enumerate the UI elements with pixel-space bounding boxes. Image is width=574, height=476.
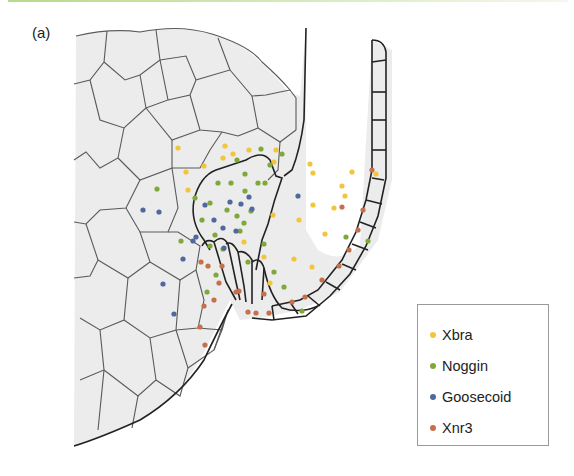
- xbra-dot: [349, 169, 354, 174]
- noggin-dot: [242, 188, 247, 193]
- noggin-dot: [215, 180, 220, 185]
- noggin-dot: [271, 269, 276, 274]
- goosecoid-dot-icon: [430, 394, 436, 400]
- xbra-dot: [222, 143, 227, 148]
- xnr3-dot: [253, 310, 258, 315]
- xnr3-dot: [197, 324, 202, 329]
- legend-label: Goosecoid: [442, 389, 511, 405]
- goosecoid-dot: [233, 228, 238, 233]
- xnr3-dot: [360, 207, 365, 212]
- xbra-dot: [273, 147, 278, 152]
- xnr3-dot: [245, 309, 250, 314]
- noggin-dot: [255, 180, 260, 185]
- xbra-dot: [339, 183, 344, 188]
- goosecoid-dot: [295, 193, 300, 198]
- noggin-dot: [204, 289, 209, 294]
- noggin-dot: [245, 259, 250, 264]
- legend: Xbra Noggin Goosecoid Xnr3: [417, 304, 549, 446]
- noggin-dot: [178, 238, 183, 243]
- xbra-dot: [220, 155, 225, 160]
- xnr3-dot: [198, 259, 203, 264]
- xbra-dot: [296, 217, 301, 222]
- xbra-dot: [261, 254, 266, 259]
- xnr3-dot: [339, 204, 344, 209]
- xbra-dot: [175, 145, 180, 150]
- xnr3-dot: [233, 289, 238, 294]
- xbra-dot: [310, 170, 315, 175]
- noggin-dot: [234, 213, 239, 218]
- xbra-dot: [241, 239, 246, 244]
- xbra-dot: [331, 205, 336, 210]
- xbra-dot: [342, 193, 347, 198]
- noggin-dot: [228, 180, 233, 185]
- xnr3-dot: [216, 280, 221, 285]
- xnr3-dot: [261, 291, 266, 296]
- goosecoid-dot: [190, 238, 195, 243]
- noggin-dot-icon: [430, 363, 436, 369]
- legend-item-goosecoid: Goosecoid: [418, 381, 548, 412]
- goosecoid-dot: [140, 207, 145, 212]
- xbra-dot: [270, 212, 275, 217]
- noggin-dot: [242, 171, 247, 176]
- noggin-dot: [262, 180, 267, 185]
- goosecoid-dot: [211, 217, 216, 222]
- xnr3-dot: [319, 277, 324, 282]
- noggin-dot: [154, 186, 159, 191]
- legend-item-xnr3: Xnr3: [418, 412, 548, 443]
- goosecoid-dot: [249, 206, 254, 211]
- noggin-dot: [365, 238, 370, 243]
- noggin-dot: [281, 284, 286, 289]
- noggin-dot: [234, 157, 239, 162]
- xnr3-dot-icon: [430, 425, 436, 431]
- noggin-dot: [267, 162, 272, 167]
- xnr3-dot: [205, 263, 210, 268]
- xbra-dot: [267, 280, 272, 285]
- noggin-dot: [299, 308, 304, 313]
- noggin-dot: [207, 243, 212, 248]
- goosecoid-dot: [246, 194, 251, 199]
- xbra-dot: [246, 147, 251, 152]
- xbra-dot: [201, 163, 206, 168]
- goosecoid-dot: [156, 209, 161, 214]
- goosecoid-dot: [220, 225, 225, 230]
- xnr3-dot: [202, 342, 207, 347]
- xnr3-dot: [266, 310, 271, 315]
- noggin-dot: [192, 195, 197, 200]
- noggin-dot: [213, 272, 218, 277]
- xnr3-dot: [289, 299, 294, 304]
- goosecoid-dot: [180, 256, 185, 261]
- xbra-dot: [230, 151, 235, 156]
- legend-label: Noggin: [442, 358, 488, 374]
- goosecoid-dot: [171, 311, 176, 316]
- noggin-dot: [241, 220, 246, 225]
- xnr3-dot: [219, 263, 224, 268]
- xbra-dot: [309, 264, 314, 269]
- xnr3-dot: [336, 263, 341, 268]
- xbra-dot: [322, 231, 327, 236]
- noggin-dot: [258, 146, 263, 151]
- legend-item-xbra: Xbra: [418, 319, 548, 350]
- legend-label: Xbra: [442, 327, 473, 343]
- xbra-dot: [373, 171, 378, 176]
- xbra-dot: [185, 187, 190, 192]
- goosecoid-dot: [221, 245, 226, 250]
- tissue-body: [60, 28, 392, 450]
- goosecoid-dot: [227, 199, 232, 204]
- xnr3-dot: [211, 297, 216, 302]
- xbra-dot: [307, 161, 312, 166]
- goosecoid-dot: [202, 202, 207, 207]
- goosecoid-dot: [238, 201, 243, 206]
- noggin-dot: [279, 151, 284, 156]
- xnr3-dot: [201, 303, 206, 308]
- xbra-dot: [291, 256, 296, 261]
- noggin-dot: [224, 207, 229, 212]
- legend-item-noggin: Noggin: [418, 350, 548, 381]
- xbra-dot: [183, 169, 188, 174]
- noggin-dot: [199, 217, 204, 222]
- noggin-dot: [207, 200, 212, 205]
- xnr3-dot: [369, 167, 374, 172]
- goosecoid-dot: [160, 281, 165, 286]
- xbra-dot: [310, 202, 315, 207]
- xnr3-dot: [302, 294, 307, 299]
- xnr3-dot: [346, 247, 351, 252]
